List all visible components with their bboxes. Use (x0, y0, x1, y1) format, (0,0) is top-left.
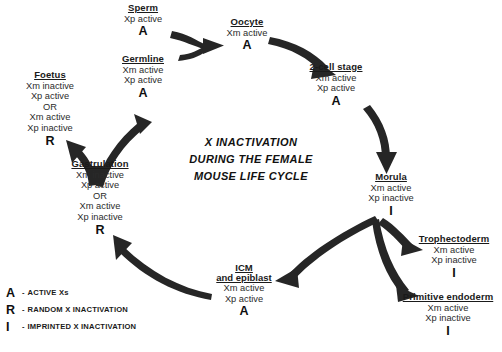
node-sperm-code: A (107, 26, 179, 37)
node-2-cell-stage-code: A (292, 96, 380, 107)
arrow-2cell-to-morula (363, 105, 390, 158)
legend-row-imprinted: I - IMPRINTED X INACTIVATION (6, 318, 136, 335)
node-germline: Germline Xm active Xp active A (105, 54, 181, 98)
diagram-title: X INACTIVATION DURING THE FEMALE MOUSE L… (163, 134, 339, 185)
node-primitive-endoderm: Primitive endoderm Xm active Xp inactive… (396, 292, 500, 336)
node-gastrulation-or: OR (55, 191, 145, 202)
node-2-cell-stage-state-0: Xm active (292, 73, 380, 84)
node-germline-code: A (105, 88, 181, 99)
node-primitive-endoderm-title: Primitive endoderm (396, 292, 500, 303)
node-icm-title-2: and epiblast (198, 273, 290, 284)
node-morula: Morula Xm active Xp inactive I (347, 172, 435, 216)
node-sperm: Sperm Xp active A (107, 3, 179, 37)
node-2-cell-stage-title: 2-cell stage (292, 62, 380, 73)
node-primitive-endoderm-code: I (396, 326, 500, 337)
node-sperm-state-0: Xp active (107, 14, 179, 25)
node-gastrulation-code: R (55, 225, 145, 236)
node-morula-title: Morula (347, 172, 435, 183)
node-icm-state-1: Xp active (198, 294, 290, 305)
legend-text-imprinted: IMPRINTED X INACTIVATION (28, 322, 137, 331)
node-icm-and-epiblast: ICM and epiblast Xm active Xp active A (198, 263, 290, 317)
node-germline-state-1: Xp active (105, 75, 181, 86)
node-2-cell-stage: 2-cell stage Xm active Xp active A (292, 62, 380, 106)
node-sperm-title: Sperm (107, 3, 179, 14)
legend-key-a: A (6, 286, 22, 300)
node-primitive-endoderm-state-0: Xm active (396, 303, 500, 314)
node-oocyte-code: A (211, 40, 283, 51)
legend: A - ACTIVE Xs R - RANDOM X INACTIVATION … (6, 284, 136, 335)
node-gastrulation: Gastrulation Xm inactive Xp active OR Xm… (55, 159, 145, 235)
node-foetus-or: OR (8, 102, 92, 113)
node-gastrulation-state-3: Xp inactive (55, 212, 145, 223)
legend-text-random: RANDOM X INACTIVATION (28, 305, 129, 314)
legend-dash-i: - (22, 322, 25, 331)
node-trophectoderm-state-1: Xp inactive (408, 255, 500, 266)
diagram-title-line-2: DURING THE FEMALE (163, 151, 339, 168)
node-foetus-title: Foetus (8, 70, 92, 81)
node-gastrulation-title: Gastrulation (55, 159, 145, 170)
node-morula-code: I (347, 206, 435, 217)
node-trophectoderm-title: Trophectoderm (408, 234, 500, 245)
node-primitive-endoderm-state-1: Xp inactive (396, 313, 500, 324)
node-germline-title: Germline (105, 54, 181, 65)
node-trophectoderm-code: I (408, 268, 500, 279)
node-foetus-state-3: Xp inactive (8, 123, 92, 134)
node-trophectoderm-state-0: Xm active (408, 245, 500, 256)
x-inactivation-cycle-diagram: Sperm Xp active A Germline Xm active Xp … (0, 0, 502, 352)
node-trophectoderm: Trophectoderm Xm active Xp inactive I (408, 234, 500, 278)
node-foetus-state-1: Xp active (8, 91, 92, 102)
legend-text-active: ACTIVE Xs (28, 288, 69, 297)
legend-dash-a: - (22, 288, 25, 297)
node-morula-state-1: Xp inactive (347, 193, 435, 204)
node-2-cell-stage-state-1: Xp active (292, 83, 380, 94)
node-oocyte: Oocyte Xm active A (211, 17, 283, 51)
node-germline-state-0: Xm active (105, 65, 181, 76)
node-morula-state-0: Xm active (347, 183, 435, 194)
legend-key-i: I (6, 320, 22, 334)
node-oocyte-title: Oocyte (211, 17, 283, 28)
legend-key-r: R (6, 303, 22, 317)
diagram-title-line-3: MOUSE LIFE CYCLE (163, 168, 339, 185)
arrow-morula-to-icm (288, 216, 379, 280)
node-icm-code: A (198, 306, 290, 317)
node-gastrulation-state-1: Xp active (55, 180, 145, 191)
node-foetus-code: R (8, 136, 92, 147)
node-foetus-state-0: Xm inactive (8, 81, 92, 92)
node-foetus-state-2: Xm active (8, 112, 92, 123)
legend-row-active: A - ACTIVE Xs (6, 284, 136, 301)
legend-row-random: R - RANDOM X INACTIVATION (6, 301, 136, 318)
legend-dash-r: - (22, 305, 25, 314)
node-foetus: Foetus Xm inactive Xp active OR Xm activ… (8, 70, 92, 146)
node-gastrulation-state-2: Xm active (55, 201, 145, 212)
diagram-title-line-1: X INACTIVATION (163, 134, 339, 151)
node-gastrulation-state-0: Xm inactive (55, 170, 145, 181)
node-icm-state-0: Xm active (198, 283, 290, 294)
node-oocyte-state-0: Xm active (211, 28, 283, 39)
